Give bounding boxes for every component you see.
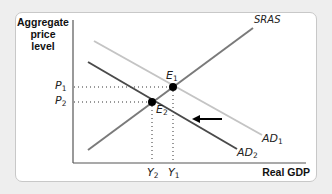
p2-sub: 2 bbox=[62, 99, 67, 108]
e2-point bbox=[148, 98, 156, 106]
ad2-label-sub: 2 bbox=[253, 151, 258, 160]
e1-label-sub: 1 bbox=[173, 74, 178, 83]
y1-sub: 1 bbox=[175, 171, 180, 180]
p2-tick-label: P2 bbox=[55, 94, 66, 108]
ad1-curve bbox=[94, 41, 262, 135]
y2-sub: 2 bbox=[154, 171, 159, 180]
p1-sub: 1 bbox=[62, 84, 67, 93]
e2-label-text: E bbox=[156, 103, 163, 116]
arrow-head-icon bbox=[192, 115, 200, 123]
e1-point bbox=[169, 83, 177, 91]
p1-text: P bbox=[55, 79, 62, 92]
y2-text: Y bbox=[147, 166, 154, 179]
e1-label-text: E bbox=[166, 69, 173, 82]
e2-label: E2 bbox=[156, 103, 168, 117]
e1-label: E1 bbox=[166, 69, 178, 83]
y2-tick-label: Y2 bbox=[147, 166, 159, 180]
p1-tick-label: P1 bbox=[55, 79, 66, 93]
y1-text: Y bbox=[168, 166, 175, 179]
sras-label: SRAS bbox=[254, 14, 280, 25]
chart-plot bbox=[0, 0, 332, 194]
e2-label-sub: 2 bbox=[163, 108, 168, 117]
y1-tick-label: Y1 bbox=[168, 166, 180, 180]
p2-text: P bbox=[55, 94, 62, 107]
ad1-label-sub: 1 bbox=[278, 137, 283, 146]
ad1-label: AD1 bbox=[262, 132, 283, 146]
ad2-label-text: AD bbox=[237, 146, 253, 159]
ad1-label-text: AD bbox=[262, 132, 278, 145]
ad2-label: AD2 bbox=[237, 146, 258, 160]
